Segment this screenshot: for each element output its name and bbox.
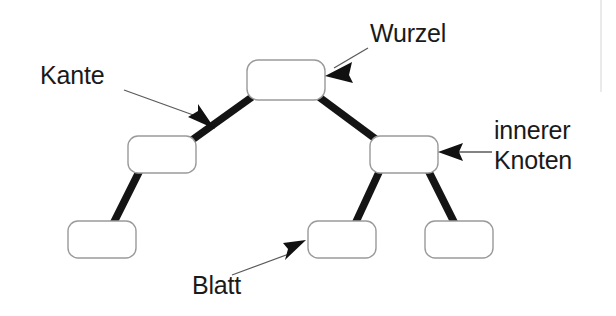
tree-node-inner-right[interactable] [370, 136, 438, 173]
annotation-label-kante: Kante [40, 60, 104, 90]
tree-edge-root-inner-right [319, 97, 377, 140]
tree-node-leaf-right[interactable] [425, 221, 493, 258]
annotation-label-wurzel: Wurzel [370, 18, 446, 48]
annotation-label-blatt: Blatt [192, 270, 241, 300]
tree-edge-inner-right-leaf-right [428, 170, 455, 224]
arrow-head-kante [188, 104, 215, 129]
tree-node-leaf-left[interactable] [68, 221, 136, 258]
tree-nodes-group [68, 60, 493, 258]
tree-node-leaf-mid[interactable] [308, 221, 376, 258]
arrow-head-blatt [283, 240, 306, 260]
annotation-label-innerer-knoten-line1: innerer [494, 115, 572, 145]
leader-line-kante [124, 90, 196, 116]
tree-edge-inner-right-leaf-mid [355, 170, 380, 224]
tree-edge-inner-left-leaf-left [113, 170, 140, 224]
tree-node-root[interactable] [247, 60, 325, 100]
annotation-label-innerer-knoten: innerer Knoten [494, 115, 572, 175]
diagram-canvas: Wurzel Kante innerer Knoten Blatt [0, 0, 616, 316]
annotation-label-innerer-knoten-line2: Knoten [494, 145, 572, 175]
tree-node-inner-left[interactable] [128, 136, 196, 173]
